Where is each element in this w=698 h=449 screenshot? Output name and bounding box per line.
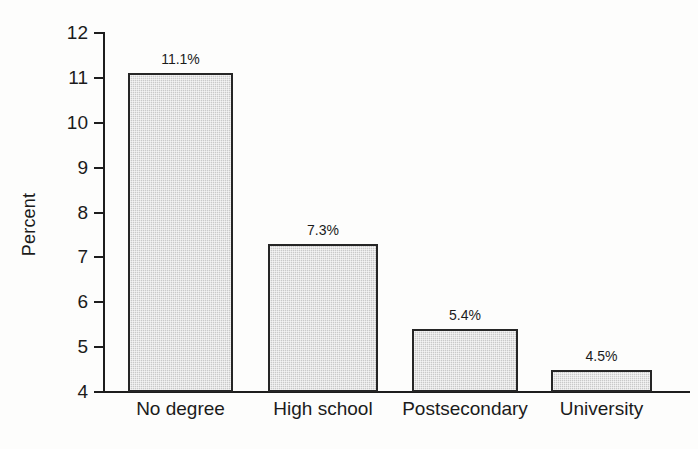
bar-university	[551, 370, 652, 392]
y-axis-tick-label: 12	[52, 23, 88, 42]
y-axis-tick	[94, 256, 104, 258]
bar-chart-figure: Percent 121110987654 11.1%7.3%5.4%4.5% N…	[0, 0, 698, 449]
y-axis-title-text: Percent	[20, 193, 41, 256]
y-axis-tick	[94, 301, 104, 303]
y-axis-tick-label: 4	[52, 382, 88, 401]
y-axis-tick-label: 6	[52, 292, 88, 311]
bar-postsecondary	[412, 329, 518, 392]
y-axis-tick-labels: 121110987654	[48, 0, 88, 449]
bar-value-label: 11.1%	[128, 52, 233, 66]
y-axis-tick	[94, 212, 104, 214]
y-axis-tick-label: 7	[52, 247, 88, 266]
y-axis-tick	[94, 346, 104, 348]
y-axis-tick	[94, 77, 104, 79]
bar-high-school	[268, 244, 378, 392]
x-axis-category-label: University	[521, 399, 682, 420]
y-axis-tick	[94, 122, 104, 124]
y-axis-tick-label: 5	[52, 337, 88, 356]
bar-value-label: 5.4%	[412, 308, 518, 322]
y-axis-tick-label: 9	[52, 158, 88, 177]
bar-no-degree	[128, 73, 233, 392]
y-axis-tick-label: 11	[52, 68, 88, 87]
y-axis-tick	[94, 32, 104, 34]
bar-value-label: 4.5%	[551, 349, 652, 363]
bar-value-label: 7.3%	[268, 223, 378, 237]
y-axis-tick-label: 10	[52, 113, 88, 132]
y-axis-tick	[94, 391, 104, 393]
y-axis-tick-label: 8	[52, 203, 88, 222]
y-axis-tick	[94, 167, 104, 169]
